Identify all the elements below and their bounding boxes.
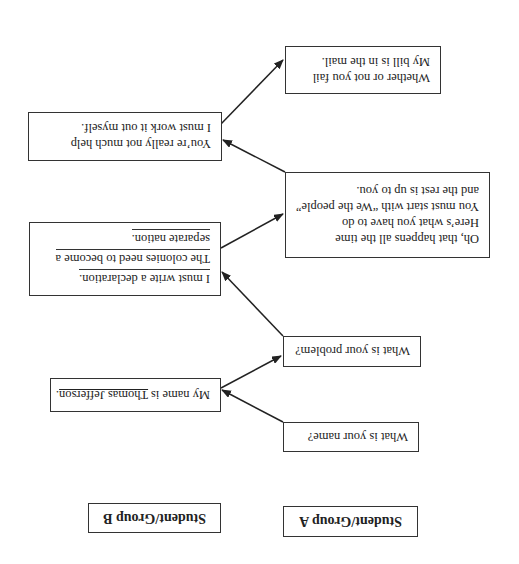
response-line: Oh, that happens all the time	[296, 231, 479, 247]
group-a-question-problem: What is your problem?	[283, 336, 421, 367]
answer-line: You’re really not much help	[39, 137, 211, 153]
group-a-header-label: Student/Group A	[299, 514, 402, 530]
group-b-answer-declaration: I must write a declaration. The colonies…	[29, 222, 221, 296]
answer-line: I must write a declaration.	[79, 269, 210, 287]
group-a-header: Student/Group A	[283, 506, 418, 537]
answer-prefix: My name is	[148, 388, 210, 402]
answer-line: separate nation.	[132, 229, 210, 247]
group-b-header-label: Student/Group B	[103, 510, 206, 526]
group-b-answer-not-much-help: You’re really not much help I must work …	[28, 112, 222, 161]
response-line: You must start with “We the people”	[296, 199, 479, 215]
group-a-question-name: What is your name?	[283, 422, 419, 452]
response-line: and the rest is up to you.	[296, 183, 479, 199]
answer-suffix: .	[56, 388, 59, 402]
answer-line: I must work it out myself.	[39, 121, 211, 137]
response-line: Whether or not you fail	[296, 70, 430, 86]
group-b-answer-name: My name is Thomas Jefferson.	[50, 378, 221, 412]
question-text: What is your name?	[294, 429, 408, 445]
response-line: My bill is in the mail.	[296, 54, 430, 70]
response-line: Here’s what you have to do	[296, 215, 479, 231]
group-b-header: Student/Group B	[88, 503, 221, 533]
group-a-response-bill: Whether or not you fail My bill is in th…	[285, 46, 441, 94]
dialogue-flow-diagram: Student/Group A Student/Group B What is …	[0, 0, 519, 564]
group-a-response-advice: Oh, that happens all the time Here’s wha…	[285, 172, 490, 258]
underlined-name: Thomas Jefferson	[59, 388, 148, 402]
question-text: What is your problem?	[294, 344, 410, 360]
answer-line: The colonies need to become a	[56, 249, 210, 267]
answer-text: My name is Thomas Jefferson.	[61, 387, 210, 403]
